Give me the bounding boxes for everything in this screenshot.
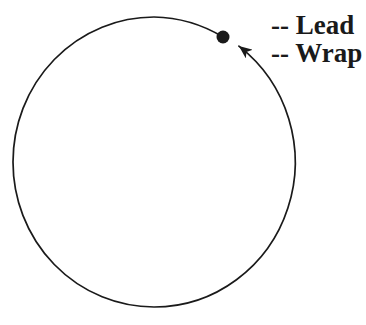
wrap-label: -- Wrap [271,40,362,67]
wrap-circle-arrow [13,17,295,307]
lead-dot [217,31,230,44]
lead-label: -- Lead [271,12,354,39]
wrap-diagram-canvas: -- Lead -- Wrap [0,0,366,325]
